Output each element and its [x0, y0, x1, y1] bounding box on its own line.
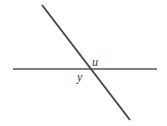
figure-canvas	[0, 0, 167, 126]
angle-label-y: y	[77, 71, 82, 83]
angle-label-u: u	[92, 56, 98, 68]
transversal-line	[42, 5, 130, 120]
geometry-figure: u y	[0, 0, 167, 126]
